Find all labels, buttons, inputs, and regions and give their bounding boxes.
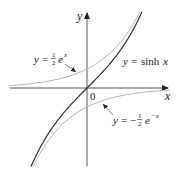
svg-text:=: = — [42, 53, 48, 65]
svg-text:2: 2 — [138, 120, 142, 128]
svg-text:1: 1 — [138, 112, 142, 120]
svg-text:=: = — [131, 55, 137, 67]
pointer-arrow-half-exp — [65, 64, 76, 72]
annotation-neg-half-exp: y = − 1 2 e −x — [103, 104, 160, 128]
svg-text:−x: −x — [151, 112, 160, 120]
origin-label: 0 — [90, 90, 96, 102]
annotation-sinh: y = sinh x — [122, 55, 168, 67]
svg-text:y: y — [112, 114, 118, 126]
sinh-curve — [31, 12, 142, 167]
svg-text:y: y — [122, 55, 128, 67]
y-axis-label: y — [76, 9, 83, 23]
hyperbolic-sine-plot: y x 0 y = 1 2 e x y = sinh x y = − 1 2 e… — [0, 0, 185, 174]
svg-text:2: 2 — [52, 59, 56, 67]
pointer-arrow-neg-half-exp — [103, 104, 113, 115]
svg-text:1: 1 — [52, 51, 56, 59]
svg-text:=: = — [121, 114, 127, 126]
svg-text:e: e — [145, 114, 150, 126]
svg-text:y: y — [33, 53, 39, 65]
neg-half-exp-neg-curve — [33, 90, 170, 167]
x-axis-label: x — [164, 89, 171, 103]
svg-text:sinh: sinh — [141, 55, 160, 67]
annotation-half-exp: y = 1 2 e x — [33, 51, 76, 73]
svg-text:x: x — [63, 51, 68, 59]
half-exp-curve — [10, 11, 140, 85]
svg-text:e: e — [58, 53, 63, 65]
svg-text:x: x — [162, 55, 168, 67]
svg-text:−: − — [130, 114, 136, 126]
